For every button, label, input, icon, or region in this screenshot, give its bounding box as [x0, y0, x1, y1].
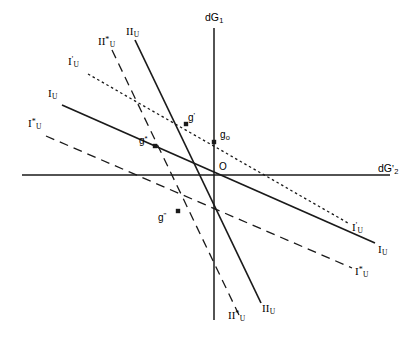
curve-label-II_U-start: IIU: [126, 26, 139, 39]
curve-label-I_U_star-start: I*U: [28, 118, 41, 131]
point-marker-g_double_prime[interactable]: [176, 209, 180, 213]
point-label-g_double_prime: g": [158, 212, 166, 223]
axis-label-vertical: dG1: [205, 12, 223, 25]
curve-II_U_star[interactable]: [112, 50, 239, 315]
point-label-g_prime: g': [188, 112, 195, 123]
curve-II_U[interactable]: [135, 40, 261, 303]
point-label-g_zero: go: [220, 130, 230, 142]
curve-label-I_U-end: IU: [378, 244, 387, 257]
curve-label-I_U_star-end: I*U: [355, 266, 368, 279]
point-marker-g_zero[interactable]: [212, 140, 216, 144]
curve-I_U_star[interactable]: [46, 136, 352, 268]
origin-label: O: [219, 162, 227, 172]
point-label-g_star: g*: [139, 135, 148, 146]
diagram-svg: [0, 0, 416, 338]
curve-label-I_U-start: IU: [48, 88, 57, 101]
point-marker-g_star[interactable]: [153, 144, 157, 148]
curve-label-I_U_prime-end: I'U: [352, 222, 363, 235]
axis-label-horizontal: dG'2: [378, 163, 398, 176]
figure-canvas: dG1 dG'2 O IUIUI*UI*UI'UI'UIIUIIUII*UII*…: [0, 0, 416, 338]
curve-label-I_U_prime-start: I'U: [68, 56, 79, 69]
curve-label-II_U_star-end: II*U: [228, 310, 245, 323]
curve-label-II_U_star-start: II*U: [98, 36, 115, 49]
curve-I_U_prime[interactable]: [88, 74, 348, 223]
curve-I_U[interactable]: [62, 105, 375, 243]
curve-label-II_U-end: IIU: [262, 303, 275, 316]
